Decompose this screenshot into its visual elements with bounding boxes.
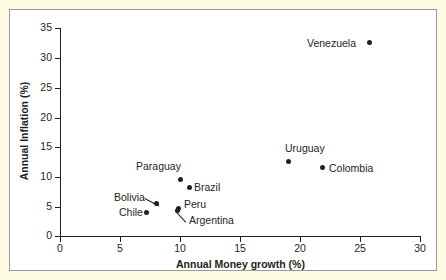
y-tick-5 xyxy=(55,207,60,208)
label-bolivia: Bolivia xyxy=(114,192,145,203)
x-tick-label-15: 15 xyxy=(225,243,255,254)
y-tick-label-15: 15 xyxy=(28,141,52,152)
y-tick-label-0: 0 xyxy=(28,230,52,241)
label-paraguay: Paraguay xyxy=(136,161,181,172)
y-tick-20 xyxy=(55,118,60,119)
y-tick-25 xyxy=(55,88,60,89)
x-tick-label-20: 20 xyxy=(285,243,315,254)
y-tick-label-25: 25 xyxy=(28,82,52,93)
x-tick-label-30: 30 xyxy=(405,243,435,254)
scatter-plot: 35 30 25 20 15 10 5 0 0 5 10 xyxy=(0,0,446,280)
x-tick-label-0: 0 xyxy=(45,243,75,254)
label-chile: Chile xyxy=(119,207,143,218)
x-axis-title: Annual Money growth (%) xyxy=(60,258,421,270)
y-tick-10 xyxy=(55,177,60,178)
point-bolivia[interactable] xyxy=(154,201,159,206)
label-uruguay: Uruguay xyxy=(285,143,325,154)
point-paraguay[interactable] xyxy=(178,177,183,182)
y-tick-35 xyxy=(55,28,60,29)
label-venezuela: Venezuela xyxy=(307,38,356,49)
x-tick-label-10: 10 xyxy=(165,243,195,254)
label-brazil: Brazil xyxy=(194,182,220,193)
point-brazil[interactable] xyxy=(187,185,192,190)
label-colombia: Colombia xyxy=(329,163,373,174)
y-axis-line xyxy=(60,28,61,237)
point-argentina[interactable] xyxy=(175,208,180,213)
y-tick-label-35: 35 xyxy=(28,22,52,33)
y-tick-label-30: 30 xyxy=(28,52,52,63)
y-tick-30 xyxy=(55,58,60,59)
point-uruguay[interactable] xyxy=(286,159,291,164)
label-argentina: Argentina xyxy=(189,215,234,226)
y-tick-15 xyxy=(55,147,60,148)
y-tick-label-10: 10 xyxy=(28,171,52,182)
label-peru: Peru xyxy=(184,199,206,210)
x-tick-label-25: 25 xyxy=(345,243,375,254)
y-tick-label-20: 20 xyxy=(28,112,52,123)
x-tick-label-5: 5 xyxy=(105,243,135,254)
point-venezuela[interactable] xyxy=(367,40,372,45)
y-tick-label-5: 5 xyxy=(28,201,52,212)
chart-page: 35 30 25 20 15 10 5 0 0 5 10 xyxy=(0,0,446,280)
point-chile[interactable] xyxy=(144,210,149,215)
point-colombia[interactable] xyxy=(320,165,325,170)
y-axis-title: Annual Inflation (%) xyxy=(18,41,30,221)
